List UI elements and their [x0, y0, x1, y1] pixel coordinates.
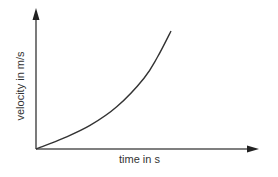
velocity-time-chart: [0, 0, 278, 177]
x-axis-arrow-icon: [247, 146, 259, 153]
velocity-curve: [36, 31, 171, 149]
x-axis-label: time in s: [119, 153, 160, 165]
y-axis-arrow-icon: [33, 8, 40, 20]
y-axis-label: velocity in m/s: [14, 51, 26, 120]
